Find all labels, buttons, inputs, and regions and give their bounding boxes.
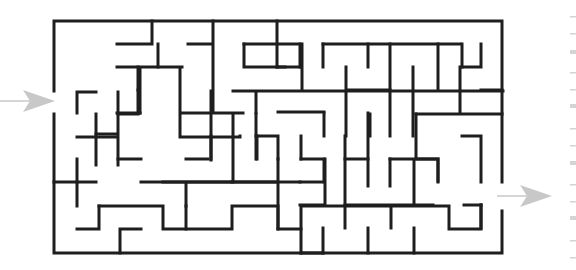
maze-board — [0, 0, 576, 270]
entrance-arrow — [0, 90, 55, 112]
exit-arrow — [497, 185, 552, 207]
page-edge-marks — [570, 16, 576, 259]
maze-walls — [54, 21, 503, 253]
